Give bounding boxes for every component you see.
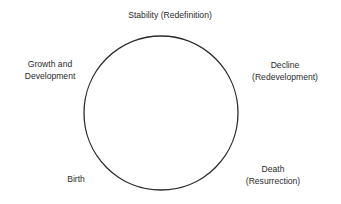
- stage-birth-line-1: Birth: [63, 173, 89, 185]
- cycle-ring: [84, 36, 238, 190]
- stage-growth-line-1: Growth and: [14, 58, 86, 70]
- stage-death-line-2: (Resurrection): [240, 175, 306, 187]
- stage-label-death: Death (Resurrection): [240, 163, 306, 187]
- life-cycle-diagram: Stability (Redefinition) Growth and Deve…: [0, 0, 341, 204]
- stage-growth-line-2: Development: [14, 70, 86, 82]
- stage-death-line-1: Death: [240, 163, 306, 175]
- stage-label-growth: Growth and Development: [14, 58, 86, 82]
- stage-label-birth: Birth: [63, 173, 89, 185]
- stage-label-decline: Decline (Redevelopment): [242, 59, 328, 83]
- stage-stability-line-1: Stability (Redefinition): [106, 9, 234, 21]
- stage-decline-line-2: (Redevelopment): [242, 71, 328, 83]
- stage-label-stability: Stability (Redefinition): [106, 9, 234, 21]
- stage-decline-line-1: Decline: [242, 59, 328, 71]
